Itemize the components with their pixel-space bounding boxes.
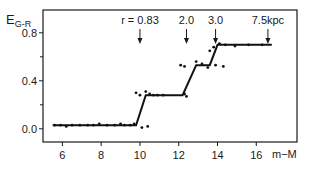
data-point bbox=[222, 65, 225, 68]
annotation-arrow-head bbox=[265, 38, 270, 44]
data-point bbox=[133, 123, 136, 126]
data-point bbox=[140, 126, 143, 129]
data-point bbox=[65, 125, 68, 128]
data-point bbox=[148, 93, 151, 96]
x-axis-ticks: 6810121416 bbox=[59, 142, 262, 161]
data-point bbox=[179, 64, 182, 67]
y-axis-label-main: E bbox=[6, 12, 15, 27]
data-points bbox=[53, 42, 263, 129]
x-tick-label: 12 bbox=[173, 149, 185, 161]
data-point bbox=[247, 43, 250, 46]
data-point bbox=[59, 124, 62, 127]
data-point bbox=[212, 46, 215, 49]
x-axis-label: m−M bbox=[272, 148, 297, 160]
data-point bbox=[129, 124, 132, 127]
x-tick-label: 14 bbox=[211, 149, 223, 161]
data-point bbox=[224, 43, 227, 46]
data-point bbox=[106, 124, 109, 127]
data-point bbox=[156, 94, 159, 97]
y-axis-label-sub: G-R bbox=[15, 19, 32, 29]
data-point bbox=[78, 124, 81, 127]
data-point bbox=[123, 124, 126, 127]
annotation-arrow-head bbox=[184, 38, 189, 44]
step-fit bbox=[53, 45, 272, 125]
data-point bbox=[86, 124, 89, 127]
annotations: r = 0.832.03.07.5kpc bbox=[121, 14, 284, 44]
data-point bbox=[195, 60, 198, 63]
y-axis-label: EG-R bbox=[6, 12, 32, 29]
x-tick-label: 16 bbox=[250, 149, 262, 161]
plot-frame bbox=[43, 10, 297, 142]
data-point bbox=[146, 125, 149, 128]
x-tick-label: 6 bbox=[59, 149, 65, 161]
annotation-label: r = 0.83 bbox=[121, 14, 159, 26]
data-point bbox=[119, 123, 122, 126]
data-point bbox=[201, 63, 204, 66]
data-point bbox=[144, 90, 147, 93]
y-tick-label: 0.0 bbox=[22, 123, 37, 135]
data-point bbox=[53, 124, 56, 127]
data-point bbox=[214, 64, 217, 67]
annotation-label: 2.0 bbox=[179, 14, 194, 26]
annotation-label: 7.5kpc bbox=[252, 14, 285, 26]
data-point bbox=[218, 42, 221, 45]
data-point bbox=[113, 124, 116, 127]
y-axis-ticks: 0.00.40.8 bbox=[22, 27, 43, 135]
chart: 0.00.40.8 6810121416 r = 0.832.03.07.5kp… bbox=[0, 0, 315, 171]
x-tick-label: 10 bbox=[134, 149, 146, 161]
data-point bbox=[185, 95, 188, 98]
data-point bbox=[92, 124, 95, 127]
data-point bbox=[183, 93, 186, 96]
annotation-label: 3.0 bbox=[208, 14, 223, 26]
x-tick-label: 8 bbox=[98, 149, 104, 161]
data-point bbox=[208, 49, 211, 52]
data-point bbox=[98, 123, 101, 126]
data-point bbox=[139, 94, 142, 97]
data-point bbox=[183, 65, 186, 68]
data-point bbox=[261, 43, 264, 46]
annotation-arrow-head bbox=[137, 38, 142, 44]
data-point bbox=[206, 66, 209, 69]
data-point bbox=[162, 94, 165, 97]
annotation-arrow-head bbox=[213, 38, 218, 44]
data-point bbox=[71, 124, 74, 127]
data-point bbox=[152, 94, 155, 97]
data-point bbox=[234, 45, 237, 48]
data-point bbox=[135, 91, 138, 94]
y-tick-label: 0.4 bbox=[22, 75, 37, 87]
step-fit-line bbox=[53, 45, 272, 125]
